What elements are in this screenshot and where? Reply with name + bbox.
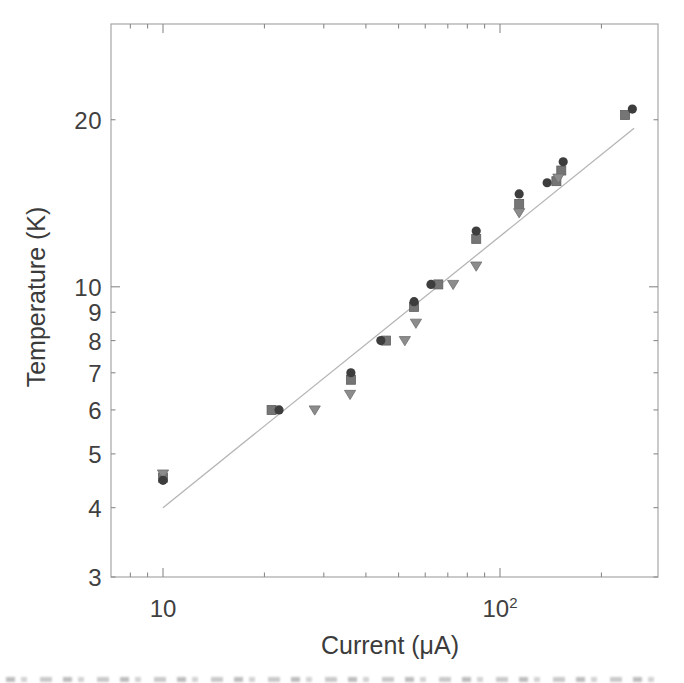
y-tick-label-7: 7 (58, 362, 102, 386)
figure: 20109876543 10102 Current (μA) Temperatu… (0, 0, 684, 683)
data-point-circle (158, 476, 167, 485)
x-axis-title: Current (μA) (240, 631, 540, 660)
data-point-triangle-down (410, 319, 421, 328)
y-tick-label-4: 4 (58, 497, 102, 521)
data-point-triangle-down (448, 280, 459, 289)
data-point-circle (346, 368, 355, 377)
y-axis-title: Temperature (K) (22, 147, 50, 447)
y-tick-label-20: 20 (58, 109, 102, 133)
data-point-circle (559, 157, 568, 166)
x-tick-label-exponent: 2 (509, 594, 517, 611)
data-point-square (621, 110, 630, 119)
data-point-triangle-down (471, 262, 482, 271)
data-point-triangle-down (309, 406, 320, 415)
cropped-caption-remnant (6, 677, 654, 682)
data-point-circle (543, 178, 552, 187)
data-point-circle (472, 226, 481, 235)
data-point-circle (274, 405, 283, 414)
axis-ticks (111, 24, 658, 577)
y-tick-label-5: 5 (58, 443, 102, 467)
data-point-circle (515, 189, 524, 198)
fit-line (163, 128, 634, 507)
x-tick-label-10: 10 (123, 596, 203, 622)
data-point-triangle-down (399, 337, 410, 346)
series-square (159, 110, 630, 482)
data-point-circle (409, 297, 418, 306)
series-circle (158, 105, 637, 485)
data-point-circle (376, 336, 385, 345)
y-tick-label-6: 6 (58, 399, 102, 423)
series-triangle-down (157, 174, 564, 479)
data-point-circle (426, 280, 435, 289)
y-tick-label-10: 10 (58, 276, 102, 300)
data-point-square (515, 199, 524, 208)
data-point-triangle-down (514, 209, 525, 218)
plot-area (0, 0, 684, 683)
y-tick-label-9: 9 (58, 301, 102, 325)
y-tick-label-8: 8 (58, 330, 102, 354)
data-point-triangle-down (344, 390, 355, 399)
data-point-square (472, 234, 481, 243)
x-tick-label-100: 102 (460, 596, 540, 622)
axes-spines (111, 24, 658, 577)
y-tick-label-3: 3 (58, 566, 102, 590)
data-point-circle (628, 105, 637, 114)
data-point-square (557, 166, 566, 175)
